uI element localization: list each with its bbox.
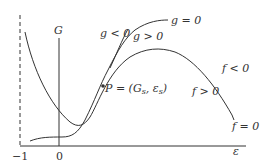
label-f-zero: f = 0 xyxy=(231,120,259,133)
label-g-negative: g < 0 xyxy=(100,27,130,40)
epsilon-axis-label: ε xyxy=(233,145,239,158)
label-g-positive: g > 0 xyxy=(133,30,163,43)
label-g-zero: g = 0 xyxy=(171,14,201,27)
g-axis-label: G xyxy=(54,24,63,37)
nullcline-diagram: G ε −1 0 g < 0 g > 0 g = 0 f < 0 f > 0 f… xyxy=(0,0,268,163)
point-p-label: P = (Gs, εs) xyxy=(104,82,167,96)
tick-minus-one: −1 xyxy=(12,150,28,163)
f-zero-curve xyxy=(25,32,234,125)
tick-zero: 0 xyxy=(56,150,63,163)
label-f-negative: f < 0 xyxy=(221,62,249,75)
label-f-positive: f > 0 xyxy=(191,85,219,98)
